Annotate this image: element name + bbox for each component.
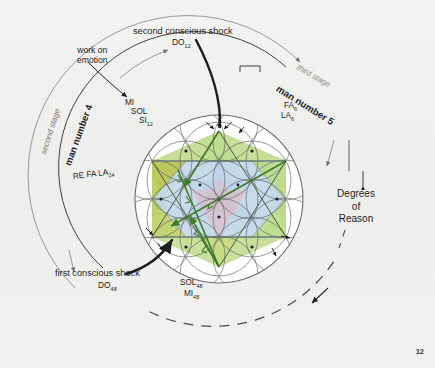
note-mi-48: MI48 (184, 289, 199, 300)
note-la-6: LA6 (281, 111, 294, 122)
note-sol-bottom-name: SOL (180, 278, 196, 287)
note-mi-bottom-sub: 48 (193, 294, 199, 300)
degrees-dash-lower (339, 230, 345, 248)
arc-bracket-tick (240, 66, 260, 72)
note-si-sub: 12 (147, 121, 153, 127)
note-si-12: SI12 (139, 116, 153, 127)
note-la-sub: 6 (291, 116, 294, 122)
arc-outer-upper-left-tip (120, 50, 168, 78)
note-do-12: DO (172, 37, 185, 47)
diagram-vector-layer (0, 0, 435, 368)
note-do-48: DO (98, 280, 111, 290)
note-mi-upper: MI (125, 98, 134, 107)
label-degrees-of-reason: Degrees of Reason (327, 188, 385, 226)
note-sol-upper: SOL (131, 107, 147, 116)
degrees-line1: Degrees (337, 188, 375, 199)
arc-right-arrow-down (327, 140, 334, 166)
note-sol-bottom-sub: 48 (196, 283, 202, 289)
degrees-line2: of (352, 201, 360, 212)
note-sol-48: SOL48 (180, 278, 203, 289)
label-second-shock-note: DO12 (172, 38, 191, 49)
diagram-canvas: second conscious shock DO12 work on emot… (0, 0, 435, 368)
label-first-shock-note: DO48 (98, 281, 117, 292)
note-do-48-sub: 48 (111, 286, 117, 292)
label-first-conscious-shock: first conscious shock (55, 268, 140, 278)
label-work-on-emotion: work on emotion (77, 46, 108, 65)
note-si-name: SI (139, 116, 147, 125)
work-on-emotion-line2: emotion (77, 55, 108, 65)
label-second-conscious-shock: second conscious shock (133, 26, 233, 36)
note-la-name: LA (281, 111, 291, 120)
arc-dashed-arrowhead (312, 288, 328, 303)
degrees-line3: Reason (339, 213, 373, 224)
note-do-12-sub: 12 (185, 43, 191, 49)
page-number: 12 (416, 347, 424, 356)
note-re-fa-la-sub: 24 (108, 172, 115, 179)
work-on-emotion-line1: work on (77, 45, 107, 55)
leader-work-on-emotion (88, 62, 127, 97)
leader-second-shock (196, 40, 220, 127)
note-mi-bottom-name: MI (184, 289, 193, 298)
